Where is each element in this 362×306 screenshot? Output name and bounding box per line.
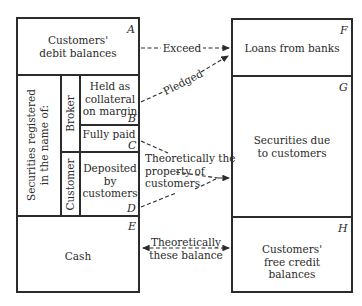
theoretically-balance-label: Theoretically these balance	[146, 236, 226, 261]
exceed-label: Exceed	[161, 42, 203, 55]
d-to-g-arrow	[141, 193, 176, 207]
theoretically-property-label: Theoretically the property of customers	[145, 152, 237, 190]
pledged-arrow-lower	[141, 91, 165, 102]
pledged-arrow-upper	[201, 56, 228, 72]
